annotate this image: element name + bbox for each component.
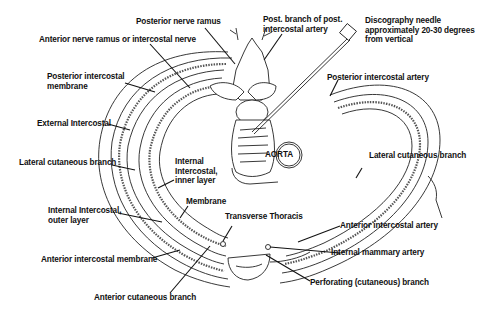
label-posterior-intercostal-artery: Posterior intercostal artery	[327, 73, 429, 83]
label-membrane: Membrane	[186, 197, 226, 207]
label-posterior-intercostal-membrane: Posterior intercostal membrane	[47, 72, 125, 91]
label-lateral-cutaneous-branch-right: Lateral cutaneous branch	[369, 151, 466, 161]
label-external-intercostal: External Intercostal	[37, 119, 111, 129]
label-transverse-thoracis: Transverse Thoracis	[225, 212, 303, 222]
label-anterior-cutaneous-branch: Anterior cutaneous branch	[94, 293, 196, 303]
label-internal-intercostal-inner: Internal Intercostal, inner layer	[175, 157, 217, 186]
label-posterior-nerve-ramus: Posterior nerve ramus	[136, 17, 221, 27]
label-aorta: AORTA	[265, 150, 293, 160]
label-internal-intercostal-outer: Internal Intercostal, outer layer	[48, 206, 121, 225]
label-internal-mammary-artery: Internal mammary artery	[331, 248, 424, 258]
label-post-branch-artery: Post. branch of post. intercostal artery	[263, 15, 342, 34]
label-lateral-cutaneous-branch-left: Lateral cutaneous branch	[19, 158, 116, 168]
label-perforating-branch: Perforating (cutaneous) branch	[310, 278, 429, 288]
label-anterior-intercostal-membrane: Anterior intercostal membrane	[41, 255, 157, 265]
label-anterior-intercostal-artery: Anterior intercostal artery	[340, 221, 438, 231]
label-anterior-nerve-ramus: Anterior nerve ramus or intercostal nerv…	[39, 35, 196, 45]
label-discography-needle: Discography needle approximately 20-30 d…	[365, 16, 475, 45]
